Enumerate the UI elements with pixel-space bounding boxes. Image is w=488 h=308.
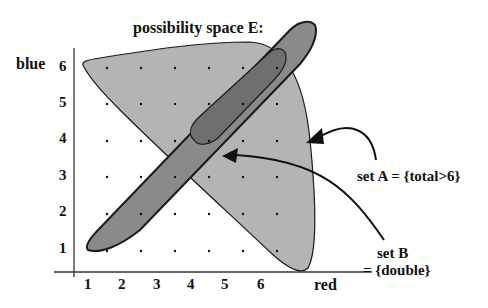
y-tick-1: 1 (59, 240, 67, 257)
y-axis-label: blue (16, 55, 45, 73)
set-a-arrow (318, 128, 376, 160)
possibility-space-diagram: possibility space E: blue red 6 5 4 3 2 … (0, 0, 488, 308)
x-tick-6: 6 (257, 276, 265, 293)
set-b-annotation-line2: = {double} (363, 262, 430, 279)
x-tick-1: 1 (84, 276, 92, 293)
y-tick-6: 6 (59, 58, 67, 75)
y-tick-4: 4 (59, 130, 67, 147)
diagram-title: possibility space E: (133, 19, 264, 37)
x-tick-4: 4 (187, 276, 195, 293)
y-tick-2: 2 (59, 203, 67, 220)
x-tick-2: 2 (118, 276, 126, 293)
set-b-annotation-line1: set B (377, 245, 408, 262)
y-tick-3: 3 (59, 167, 67, 184)
x-tick-3: 3 (153, 276, 161, 293)
y-tick-5: 5 (59, 94, 67, 111)
x-axis-label: red (314, 276, 337, 294)
set-a-annotation: set A = {total>6} (357, 168, 461, 185)
x-tick-5: 5 (221, 276, 229, 293)
